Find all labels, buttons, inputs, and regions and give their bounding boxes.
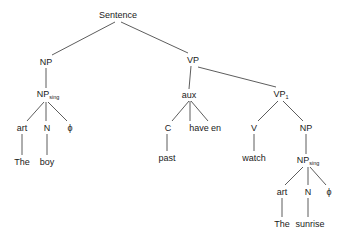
node-aux: aux <box>182 90 197 100</box>
node-v: V <box>251 123 257 133</box>
node-phi-object: ϕ <box>326 187 331 197</box>
node-label: NP <box>37 89 50 99</box>
node-sentence: Sentence <box>99 10 137 20</box>
node-subscript: sing <box>49 94 59 100</box>
node-np-subject: NP <box>40 57 53 67</box>
node-art-subject: art <box>17 123 28 133</box>
node-subscript: 1 <box>285 94 288 100</box>
node-n-object: N <box>305 187 312 197</box>
leaf-watch: watch <box>242 153 266 163</box>
tree-edges <box>0 0 354 241</box>
leaf-the-object: The <box>274 219 290 229</box>
node-vp1: VP1 <box>273 89 288 102</box>
node-np-sing-subject: NPsing <box>37 89 60 102</box>
node-label: NP <box>297 155 310 165</box>
leaf-have: have <box>189 123 209 133</box>
node-art-object: art <box>277 187 288 197</box>
node-c: C <box>165 123 172 133</box>
leaf-boy: boy <box>40 157 55 167</box>
node-vp: VP <box>187 55 199 65</box>
node-phi-subject: ϕ <box>67 123 72 133</box>
node-label: VP <box>273 89 285 99</box>
node-np-sing-object: NPsing <box>297 155 320 168</box>
leaf-en: en <box>211 123 221 133</box>
node-subscript: sing <box>309 160 319 166</box>
node-n-subject: N <box>44 123 51 133</box>
leaf-sunrise: sunrise <box>295 219 324 229</box>
leaf-past: past <box>158 153 175 163</box>
node-np-object: NP <box>300 123 313 133</box>
leaf-the-subject: The <box>14 157 30 167</box>
